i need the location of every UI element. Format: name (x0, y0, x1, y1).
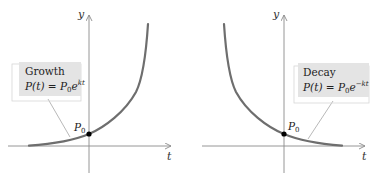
growth-p0-label: P0 (74, 122, 86, 135)
growth-initial-point (86, 131, 91, 136)
growth-t-axis-label: t (167, 151, 171, 162)
decay-leader-line (308, 101, 333, 139)
decay-initial-point (281, 131, 286, 136)
growth-leader-line (48, 99, 70, 137)
growth-graph (8, 15, 171, 173)
decay-formula: P(t) = P0e−kt (303, 81, 369, 95)
decay-p0-label: P0 (288, 121, 300, 134)
decay-t-axis-label: t (362, 151, 366, 162)
growth-formula: P(t) = P0ekt (25, 80, 85, 94)
growth-y-axis-label: y (78, 9, 84, 20)
decay-title: Decay (303, 67, 336, 78)
growth-title: Growth (25, 66, 65, 77)
decay-y-axis-label: y (273, 9, 279, 20)
